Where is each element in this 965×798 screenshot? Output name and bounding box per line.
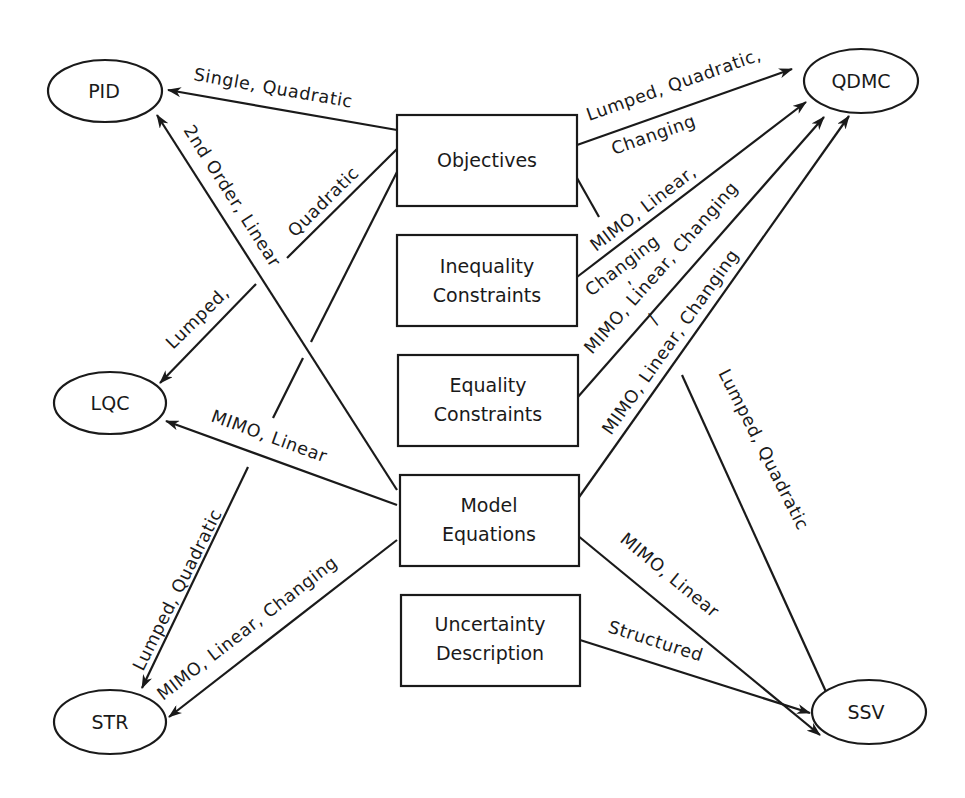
node-ssv-label: SSV <box>847 701 884 723</box>
edge-label-objectives-lqc-a: Quadratic <box>284 163 363 241</box>
box-uncertainty-line1: Uncertainty <box>434 613 545 635</box>
node-str: STR <box>54 690 166 754</box>
edge-label-model-pid: 2nd Order, Linear <box>180 121 286 270</box>
box-objectives: Objectives <box>397 115 577 206</box>
edge-label-objectives-pid: Single, Quadratic <box>192 64 354 111</box>
node-pid: PID <box>48 60 162 122</box>
node-lqc-label: LQC <box>91 392 130 414</box>
node-str-label: STR <box>92 711 129 733</box>
node-pid-label: PID <box>88 80 120 102</box>
box-model-line2: Equations <box>442 523 536 545</box>
box-uncertainty-description: Uncertainty Description <box>401 595 580 686</box>
box-uncertainty-line2: Description <box>436 642 544 664</box>
edge-label-model-ssv: MIMO, Linear <box>616 529 723 622</box>
box-inequality-line1: Inequality <box>440 255 534 277</box>
edge-objectives-qdmc: Lumped, Quadratic, Changing <box>577 44 792 158</box>
node-qdmc: QDMC <box>804 49 918 113</box>
box-equality-constraints: Equality Constraints <box>398 355 578 446</box>
diagram-canvas: Single, Quadratic Quadratic Lumped, Lump… <box>0 0 965 798</box>
box-inequality-line2: Constraints <box>433 284 541 306</box>
box-model-line1: Model <box>460 494 517 516</box>
edge-objectives-lqc: Quadratic Lumped, <box>160 149 397 383</box>
edge-label-objectives-qdmc-a: Lumped, Quadratic, <box>584 44 764 124</box>
box-objectives-label: Objectives <box>437 149 537 171</box>
box-inequality-constraints: Inequality Constraints <box>397 235 577 326</box>
edge-label-uncertainty-ssv: Structured <box>606 617 706 666</box>
box-model-equations: Model Equations <box>400 475 579 566</box>
node-qdmc-label: QDMC <box>831 70 890 92</box>
edge-label-model-lqc: MIMO, Linear <box>209 406 331 467</box>
box-equality-line2: Constraints <box>434 403 542 425</box>
box-equality-line1: Equality <box>449 374 526 396</box>
node-ssv: SSV <box>812 680 926 744</box>
edge-model-lqc: MIMO, Linear <box>166 406 397 505</box>
node-lqc: LQC <box>54 372 166 434</box>
edge-objectives-pid: Single, Quadratic <box>168 64 397 130</box>
edge-label-objectives-ssv: Lumped, Quadratic <box>714 366 813 534</box>
edge-equality-qdmc: , MIMO, Linear, Changing <box>577 117 824 398</box>
